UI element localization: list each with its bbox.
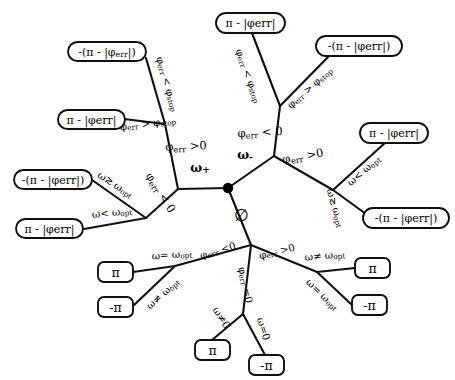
leaf-label: -(π - |φerr|) xyxy=(78,46,136,60)
omega-plus-label: ω+ xyxy=(190,160,209,176)
leaf-label: -(π - |φerr|) xyxy=(328,40,390,54)
edge-label-omega-neq-omegaopt-bottom-right: ω≠ ωopt xyxy=(304,248,345,263)
edge-label-phierr-lt-phistop-upper-left: φerr < φstop xyxy=(154,55,181,113)
leaf-pi-minus-abs-phierr-top[interactable]: π - |φerr| xyxy=(216,13,285,33)
edge-label-phierr-gt-phistop-lower-left: φerr > φstop xyxy=(119,115,177,134)
empty-set-label: ∅ xyxy=(234,205,249,225)
leaf-pi-minus-abs-phierr-left-upper[interactable]: π - |φerr| xyxy=(58,110,125,129)
edge-label-omega-neq-omegaopt-bottom-left: ω≠ ωopt xyxy=(144,276,182,312)
leaf-label: π xyxy=(111,265,119,280)
leaf-label: π xyxy=(208,343,216,358)
leaf-label: π - |φerr| xyxy=(225,17,275,31)
edge-label-phierr-gt-0-bottom-right: φerr >0 xyxy=(258,242,297,262)
leaf-label: -(π - |φerr|) xyxy=(22,174,84,188)
decision-tree-figure: ω+ ω- ∅ φerr < φstop φerr > φstop φerr >… xyxy=(0,0,455,380)
edge-label-phierr-gt-phistop-top-right: φerr > φstop xyxy=(285,64,335,111)
leaf-neg-pi-minus-abs-phierr-left-mid[interactable]: -(π - |φerr|) xyxy=(14,170,92,189)
leaf-neg-pi-bottom-right-lower[interactable]: -π xyxy=(352,295,387,315)
edge-label-phierr-eq-0-bottom: φerr =0 xyxy=(235,266,254,304)
edge-junctionH-to-leaf13 xyxy=(317,268,355,272)
leaf-pi-minus-abs-phierr-left-lower[interactable]: π - |φerr| xyxy=(16,219,83,238)
leaf-pi-bottom-center[interactable]: π xyxy=(195,340,230,360)
leaf-pi-minus-abs-phierr-right-upper[interactable]: π - |φerr| xyxy=(360,123,428,143)
branch-labels: ω+ ω- ∅ xyxy=(190,147,253,225)
leaf-pi-bottom-left-upper[interactable]: π xyxy=(98,262,133,282)
root-node-dot xyxy=(223,183,233,193)
omega-minus-label: ω- xyxy=(237,147,253,163)
leaf-label: π xyxy=(368,261,376,276)
edge-label-omega-lt-omegaopt-left: ω< ωopt xyxy=(91,205,133,221)
leaf-label: -(π - |φerr|) xyxy=(375,212,437,226)
leaf-pi-bottom-right-upper[interactable]: π xyxy=(355,258,390,278)
leaf-neg-pi-minus-abs-phierr-top-right[interactable]: -(π - |φerr|) xyxy=(316,36,402,56)
leaf-neg-pi-bottom-left-lower[interactable]: -π xyxy=(98,297,133,317)
leaf-label: -π xyxy=(260,358,272,373)
leaf-neg-pi-minus-abs-phierr-upper-left[interactable]: -(π - |φerr|) xyxy=(68,42,146,61)
leaf-label: -π xyxy=(363,298,375,313)
leaf-label: π - |φerr| xyxy=(66,114,116,128)
edge-omegaplus-phierr-gt0 xyxy=(165,124,178,189)
edge-label-omega-eq-omegaopt-bottom-left: ω= ωopt xyxy=(151,248,192,263)
leaf-label: -π xyxy=(109,300,121,315)
edge-label-phierr-gt-0-left: φerr >0 xyxy=(165,138,207,154)
edge-label-phierr-lt-0-bottom-left: φerr <0 xyxy=(199,240,238,262)
edge-label-phierr-gt-0-right: φerr >0 xyxy=(281,146,324,168)
edge-label-omega-eq-omegaopt-bottom-right: ω= ωopt xyxy=(303,277,340,314)
edge-label-omega-lt-omegaopt-right: ω< ωopt xyxy=(345,153,383,189)
leaf-label: π - |φerr| xyxy=(24,223,74,237)
edge-label-phierr-lt-phistop-top: φerr < φstop xyxy=(233,47,264,104)
leaf-neg-pi-minus-abs-phierr-right-lower[interactable]: -(π - |φerr|) xyxy=(363,208,449,228)
leaf-label: π - |φerr| xyxy=(369,127,419,141)
leaf-neg-pi-bottom-center[interactable]: -π xyxy=(249,355,284,375)
edge-label-omega-eq-0: ω=0 xyxy=(255,316,272,342)
edge-root-to-omega-plus xyxy=(178,188,228,189)
edge-label-omega-gte-omegaopt-right: ω≳ ωopt xyxy=(324,187,346,229)
decision-tree-svg: ω+ ω- ∅ φerr < φstop φerr > φstop φerr >… xyxy=(0,0,455,380)
